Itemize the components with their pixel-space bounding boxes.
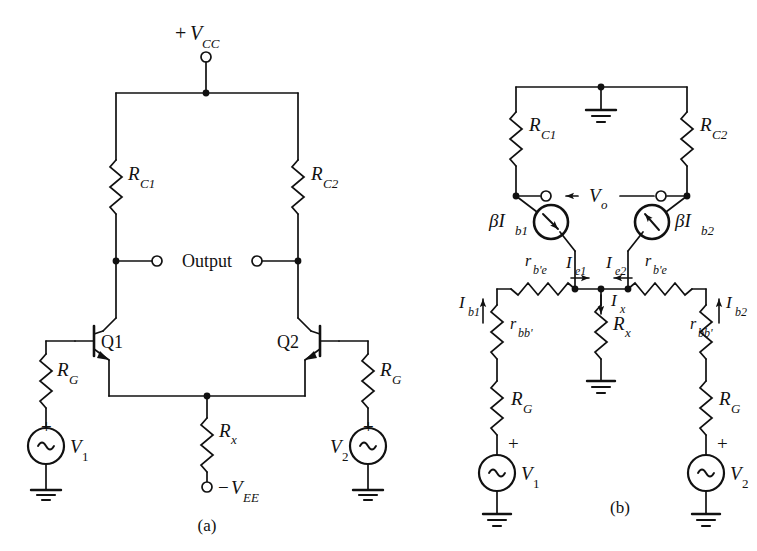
figure-canvas: + V CC R C1 R C2 Output Q1 Q2 R G R G R … bbox=[0, 0, 757, 551]
label-ib1: I bbox=[458, 293, 466, 312]
cs2-lead-bottom bbox=[628, 232, 643, 251]
label-beta-ib2-sub: b2 bbox=[701, 223, 715, 238]
label-ib1-sub: b1 bbox=[468, 305, 480, 319]
resistor-rc2-b bbox=[681, 112, 693, 166]
v1-polarity-a: + bbox=[41, 416, 52, 437]
label-rx-a-sub: x bbox=[230, 432, 237, 447]
label-rg-left-b-sub: G bbox=[523, 401, 533, 416]
resistor-rbe-right-b bbox=[628, 283, 692, 295]
label-rbb-left: r bbox=[510, 315, 517, 332]
label-beta-ib2: βI bbox=[674, 210, 692, 231]
label-rbe-right-sub: b'e bbox=[653, 263, 668, 277]
label-rc1-b-sub: C1 bbox=[541, 127, 556, 142]
resistor-rg-left-b bbox=[491, 381, 503, 435]
ground-v2-b bbox=[692, 514, 720, 526]
vcc-sign: + bbox=[175, 22, 186, 44]
resistor-rg-right-b bbox=[700, 381, 712, 435]
label-rg1-a-sub: G bbox=[69, 372, 79, 387]
label-rbe-right: r bbox=[645, 252, 652, 269]
label-v1-a-sub: 1 bbox=[82, 449, 89, 464]
circuit-diagram-svg: + V CC R C1 R C2 Output Q1 Q2 R G R G R … bbox=[0, 0, 757, 551]
label-rx-b: R bbox=[612, 313, 625, 334]
vo-terminal-right bbox=[656, 191, 666, 201]
resistor-rbb-left-b bbox=[491, 305, 503, 359]
label-beta-ib1-sub: b1 bbox=[515, 223, 528, 238]
label-rbe-left-sub: b'e bbox=[533, 263, 548, 277]
resistor-rbe-left-b bbox=[511, 283, 575, 295]
label-ix: I bbox=[610, 291, 618, 310]
ground-top-b bbox=[586, 110, 616, 122]
label-beta-ib1: βI bbox=[488, 210, 506, 231]
resistor-rc1-a bbox=[110, 160, 122, 214]
label-rc1-a-sub: C1 bbox=[140, 176, 155, 191]
output-tap-right bbox=[252, 256, 301, 266]
label-rg-right-b-sub: G bbox=[731, 401, 741, 416]
label-rbe-left: r bbox=[525, 252, 532, 269]
caption-b: (b) bbox=[610, 498, 630, 517]
cs1-lead-bottom bbox=[560, 232, 575, 251]
label-v1-b-sub: 1 bbox=[533, 476, 540, 491]
label-v2-a-sub: 2 bbox=[342, 449, 349, 464]
v1-polarity-b: + bbox=[508, 433, 519, 454]
output-tap-left bbox=[113, 256, 162, 266]
resistor-rc2-a bbox=[292, 160, 304, 214]
label-q2: Q2 bbox=[277, 332, 299, 352]
v2-polarity-a: + bbox=[363, 416, 374, 437]
q2-collector-diag bbox=[298, 318, 311, 331]
label-rbb-right: r bbox=[690, 315, 697, 332]
label-rc2-b: R bbox=[699, 114, 712, 135]
label-rc2-a: R bbox=[310, 163, 323, 184]
label-rg1-a: R bbox=[56, 359, 69, 380]
label-rbb-right-sub: bb' bbox=[698, 326, 713, 340]
vcc-terminal-a bbox=[201, 52, 211, 96]
output-label-a: Output bbox=[182, 251, 232, 271]
label-rx-a: R bbox=[218, 420, 231, 441]
label-rbb-left-sub: bb' bbox=[518, 326, 533, 340]
label-v2-b-sub: 2 bbox=[742, 476, 749, 491]
resistor-rg2-a bbox=[362, 354, 374, 408]
resistor-rc1-b bbox=[510, 112, 522, 166]
resistor-rg1-a bbox=[40, 354, 52, 408]
label-rg-left-b: R bbox=[510, 388, 523, 409]
vo-terminal-left bbox=[541, 191, 551, 201]
ground-v1-b bbox=[483, 514, 511, 526]
label-rg2-a-sub: G bbox=[392, 372, 402, 387]
label-ib2: I bbox=[725, 293, 733, 312]
ground-v2-a bbox=[353, 490, 383, 500]
label-vo-sub: o bbox=[601, 197, 608, 212]
label-rx-b-sub: x bbox=[624, 325, 631, 340]
vee-terminal-a bbox=[202, 482, 212, 492]
label-ie1: I bbox=[565, 253, 573, 272]
transistor-q2 bbox=[305, 326, 339, 396]
ground-v1-a bbox=[31, 490, 61, 500]
label-rc1-b: R bbox=[528, 114, 541, 135]
label-ie1-sub: e1 bbox=[575, 264, 586, 278]
label-ie2-sub: e2 bbox=[615, 264, 626, 278]
label-rg2-a: R bbox=[379, 359, 392, 380]
ground-rx-b bbox=[587, 381, 615, 393]
resistor-rx-a bbox=[201, 418, 213, 472]
wires-layer bbox=[28, 52, 724, 526]
vee-sub: EE bbox=[242, 490, 259, 505]
label-ib2-sub: b2 bbox=[735, 305, 747, 319]
label-rc2-b-sub: C2 bbox=[712, 127, 728, 142]
caption-a: (a) bbox=[198, 516, 217, 535]
label-rc2-a-sub: C2 bbox=[323, 176, 339, 191]
label-rg-right-b: R bbox=[718, 388, 731, 409]
vee-sign: − bbox=[218, 477, 229, 498]
v2-polarity-b: + bbox=[717, 433, 728, 454]
vcc-sub: CC bbox=[202, 36, 220, 51]
label-ie2: I bbox=[605, 253, 613, 272]
labels-layer: + V CC R C1 R C2 Output Q1 Q2 R G R G R … bbox=[41, 22, 749, 535]
label-q1: Q1 bbox=[101, 332, 123, 352]
q1-collector-diag bbox=[103, 318, 116, 331]
label-rc1-a: R bbox=[127, 163, 140, 184]
